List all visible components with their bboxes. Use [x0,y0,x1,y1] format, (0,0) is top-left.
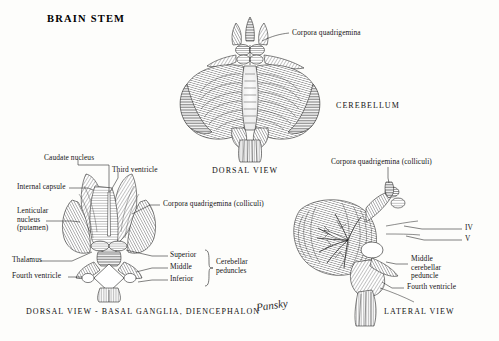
label-thalamus: Thalamus [12,256,42,265]
label-caudate-nucleus: Caudate nucleus [44,154,94,163]
label-internal-capsule: Internal capsule [17,183,66,192]
label-corpora-quadrigemina-colliculi-lateral: Corpora quadrigemina (colliculi) [331,158,432,167]
label-cerebellar-peduncles: Cerebellar peduncles [216,258,268,275]
label-third-ventricle: Third ventricle [112,166,158,175]
region-label-cerebellum: CEREBELLUM [336,101,400,110]
figure-dorsal-view [180,17,320,162]
label-cranial-nerve-v: V [465,235,470,244]
caption-lateral-view: LATERAL VIEW [384,307,455,316]
caption-dorsal-view: DORSAL VIEW [212,166,278,175]
label-cranial-nerve-iv: IV [465,224,473,233]
label-peduncle-superior: Superior [170,251,196,260]
label-corpora-quadrigemina-colliculi-basal: Corpora quadrigemina (colliculi) [163,200,264,209]
page-title: BRAIN STEM [47,13,125,24]
caption-dorsal-basal-ganglia: DORSAL VIEW - BASAL GANGLIA, DIENCEPHALO… [26,307,260,316]
figure-basal-ganglia [62,174,155,302]
label-corpora-quadrigemina: Corpora quadrigemina [292,29,361,38]
label-peduncle-inferior: Inferior [170,275,193,284]
label-middle-cerebellar-peduncle: Middle cerebellar peduncle [411,255,473,281]
label-lenticular-nucleus: Lenticular nucleus (putamen) [17,207,73,233]
figure-lateral-view [294,182,420,326]
label-lenticular-nucleus-line3: (putamen) [17,223,48,232]
peduncle-brace [205,250,213,286]
label-middle-cerebellar-peduncle-line3: peduncle [411,271,438,280]
label-fourth-ventricle-basal: Fourth ventricle [12,272,61,281]
label-fourth-ventricle-lateral: Fourth ventricle [407,283,456,292]
anatomical-plate: BRAIN STEM Corpora quadrigemina CEREBELL… [0,0,499,341]
label-cerebellar-peduncles-line2: peduncles [216,266,246,275]
label-peduncle-middle: Middle [170,263,192,272]
